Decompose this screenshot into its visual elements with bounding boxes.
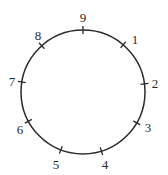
tick-label-4: 4 [102,157,109,172]
label-group: 912345678 [9,10,159,172]
tick-label-6: 6 [17,122,24,137]
tick-mark-7 [18,81,26,82]
main-circle [21,30,145,154]
tick-label-1: 1 [132,32,139,47]
tick-label-8: 8 [35,28,42,43]
tick-label-3: 3 [145,120,152,135]
tick-mark-2 [141,83,149,84]
tick-label-5: 5 [53,157,60,172]
tick-label-7: 7 [9,74,16,89]
tick-group [18,26,149,155]
tick-label-9: 9 [80,10,87,25]
tick-label-2: 2 [152,76,159,91]
circle-diagram: 912345678 [0,0,168,175]
